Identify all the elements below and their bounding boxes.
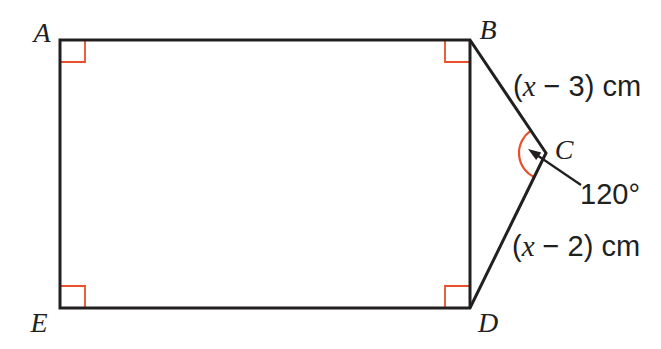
vertex-label-d: D	[477, 307, 498, 338]
label-text-run: (	[512, 230, 522, 262]
vertex-label-a: A	[31, 17, 51, 48]
right-angle-mark-e	[60, 286, 85, 308]
variable-x: x	[522, 70, 536, 102]
label-text-run: (	[513, 70, 523, 102]
pentagon-outline	[60, 40, 546, 308]
label-text-run: − 2) cm	[535, 230, 641, 262]
side-label-bc: (x − 3) cm	[513, 70, 641, 102]
right-angle-mark-d	[445, 286, 470, 308]
label-text-run: − 3) cm	[536, 70, 642, 102]
side-label-cd: (x − 2) cm	[512, 230, 640, 262]
arrowhead-icon	[528, 149, 541, 160]
right-angle-mark-a	[60, 40, 85, 62]
vertex-label-c: C	[555, 134, 574, 165]
vertex-label-e: E	[29, 307, 47, 338]
right-angle-mark-b	[445, 40, 470, 62]
variable-x: x	[521, 230, 535, 262]
figure-stage: ABCDE120°(x − 3) cm(x − 2) cm	[0, 0, 661, 349]
angle-value-label: 120°	[580, 178, 640, 210]
vertex-label-b: B	[479, 14, 496, 45]
geometry-figure: ABCDE120°(x − 3) cm(x − 2) cm	[0, 0, 661, 349]
